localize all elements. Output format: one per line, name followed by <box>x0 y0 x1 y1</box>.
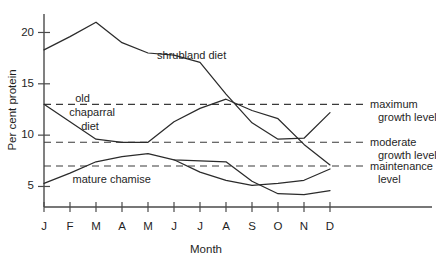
x-axis-tick-label: D <box>326 220 334 232</box>
series-label-shrubland-diet: shrubland diet <box>157 49 226 61</box>
x-axis-tick-label: A <box>118 220 126 232</box>
reference-label-moderate-growth-level: moderate <box>370 136 416 148</box>
series-label-old-chaparral-diet: chaparral <box>69 106 115 118</box>
x-axis-tick-label: M <box>91 220 101 232</box>
reference-label-maximum-growth-level: maximum <box>370 98 418 110</box>
x-axis-title: Month <box>190 243 222 255</box>
y-axis-tick-label: 5 <box>28 179 34 191</box>
y-axis-tick-labels: 5101520 <box>21 26 34 192</box>
series-label-old-chaparral-diet: old <box>75 92 90 104</box>
reference-line-labels-group: maximumgrowth levelmoderategrowth levelm… <box>370 98 436 185</box>
series-label-old-chaparral-diet: diet <box>81 120 99 132</box>
reference-label-maintenance-level: maintenance <box>370 160 433 172</box>
x-axis-tick-label: N <box>300 220 308 232</box>
x-axis-tick-label: F <box>66 220 73 232</box>
x-axis-tick-label: S <box>248 220 256 232</box>
y-axis-tick-label: 15 <box>21 77 34 89</box>
y-axis-tick-label: 10 <box>21 128 34 140</box>
chart-canvas: 5101520 JFMAMJJASOND Per cent protein Mo… <box>0 0 436 272</box>
x-axis-tick-label: J <box>171 220 177 232</box>
x-axis-tick-label: O <box>274 220 283 232</box>
y-axis-tick-label: 20 <box>21 26 34 38</box>
x-axis-tick-label: J <box>41 220 47 232</box>
x-axis-tick-label: A <box>222 220 230 232</box>
x-axis-tick-labels: JFMAMJJASOND <box>41 220 334 232</box>
x-axis-tick-label: M <box>143 220 153 232</box>
series-labels-group: shrubland dietoldchaparraldietmature cha… <box>69 49 226 185</box>
reference-label-maintenance-level: level <box>378 173 401 185</box>
protein-by-month-chart: 5101520 JFMAMJJASOND Per cent protein Mo… <box>0 0 436 272</box>
y-axis-title: Per cent protein <box>6 69 18 150</box>
reference-label-maximum-growth-level: growth level <box>378 111 436 123</box>
series-label-mature-chamise: mature chamise <box>73 173 151 185</box>
x-axis-tick-label: J <box>197 220 203 232</box>
